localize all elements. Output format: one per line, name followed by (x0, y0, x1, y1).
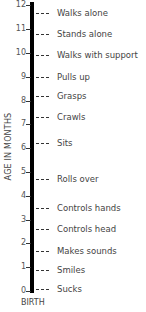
y-tick-label: 5 (12, 167, 26, 176)
milestone-marker (36, 13, 49, 14)
milestone-label: Walks with support (57, 50, 138, 60)
y-tick (26, 267, 31, 268)
milestone-marker (36, 179, 49, 180)
milestone-label: Controls hands (57, 203, 121, 213)
milestone-label: Pulls up (57, 72, 90, 82)
y-tick-label: 11 (12, 24, 26, 33)
y-tick (26, 5, 31, 6)
y-tick-label: 3 (12, 215, 26, 224)
y-tick-label: 12 (12, 0, 26, 9)
milestone-label: Smiles (57, 265, 85, 275)
y-tick-label: 4 (12, 191, 26, 200)
milestone-label: Sucks (57, 284, 82, 294)
milestone-label: Walks alone (57, 8, 108, 18)
milestone-marker (36, 208, 49, 209)
milestone-marker (36, 251, 49, 252)
y-tick-label: 2 (12, 238, 26, 247)
y-tick-label: 7 (12, 119, 26, 128)
milestone-marker (36, 270, 49, 271)
milestone-marker (36, 96, 49, 97)
y-tick (26, 172, 31, 173)
milestone-label: Grasps (57, 91, 87, 101)
milestone-label: Stands alone (57, 29, 112, 39)
milestone-label: Controls head (57, 224, 116, 234)
y-tick (26, 148, 31, 149)
y-tick-label: 10 (12, 48, 26, 57)
milestone-label: Crawls (57, 112, 85, 122)
milestone-label: Makes sounds (57, 246, 117, 256)
y-tick (26, 291, 31, 292)
y-tick-label: 6 (12, 143, 26, 152)
y-tick-label: 1 (12, 262, 26, 271)
y-tick (26, 124, 31, 125)
birth-label: BIRTH (21, 298, 45, 307)
y-tick (26, 77, 31, 78)
y-tick (26, 243, 31, 244)
y-tick-label: 9 (12, 72, 26, 81)
milestone-marker (36, 77, 49, 78)
milestone-marker (36, 34, 49, 35)
milestone-marker (36, 55, 49, 56)
y-tick (26, 101, 31, 102)
y-tick-label: 0 (12, 286, 26, 295)
milestone-label: Sits (57, 138, 73, 148)
milestone-marker (36, 229, 49, 230)
y-tick (26, 29, 31, 30)
milestone-timeline: AGE IN MONTHS 0123456789101112 Walks alo… (0, 0, 146, 312)
milestone-marker (36, 117, 49, 118)
y-tick (26, 196, 31, 197)
y-tick-label: 8 (12, 96, 26, 105)
y-tick (26, 53, 31, 54)
y-tick (26, 220, 31, 221)
milestone-label: Rolls over (57, 174, 99, 184)
milestone-marker (36, 143, 49, 144)
milestone-marker (36, 289, 49, 290)
